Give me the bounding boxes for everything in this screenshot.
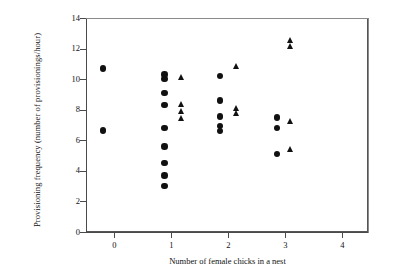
- y-tick-label: 12: [50, 44, 80, 53]
- y-tick-label: 4: [50, 166, 80, 175]
- data-point-triangle: [287, 37, 293, 43]
- y-tick-mark: [80, 232, 86, 233]
- plot-area: [86, 18, 368, 232]
- y-tick-label: 8: [50, 105, 80, 114]
- data-point-triangle: [233, 63, 239, 69]
- data-point-triangle: [178, 74, 184, 80]
- x-tick-mark: [171, 232, 172, 238]
- data-point-circle: [100, 127, 107, 134]
- plot-frame-right: [368, 18, 369, 233]
- plot-frame-top: [86, 18, 369, 19]
- x-tick-label: 3: [275, 241, 295, 250]
- y-tick-label: 0: [50, 228, 80, 237]
- y-tick-mark: [80, 18, 86, 19]
- y-tick-mark: [80, 110, 86, 111]
- y-axis-title: Provisioning frequency (number of provis…: [32, 15, 42, 245]
- x-tick-label: 0: [104, 241, 124, 250]
- data-point-triangle: [178, 101, 184, 107]
- data-point-circle: [217, 97, 224, 104]
- data-point-circle: [100, 65, 107, 72]
- y-tick-mark: [80, 171, 86, 172]
- y-tick-label: 6: [50, 136, 80, 145]
- data-point-circle: [161, 143, 168, 150]
- y-axis-spine: [86, 18, 87, 233]
- y-tick-mark: [80, 79, 86, 80]
- x-tick-mark: [114, 232, 115, 238]
- x-axis-title: Number of female chicks in a nest: [86, 256, 369, 266]
- y-tick-label: 2: [50, 197, 80, 206]
- scatter-plot-figure: 02468101214 01234 Provisioning frequency…: [0, 0, 397, 279]
- y-tick-mark: [80, 201, 86, 202]
- data-point-triangle: [287, 146, 293, 152]
- data-point-circle: [217, 113, 224, 120]
- y-tick-mark: [80, 140, 86, 141]
- y-tick-label: 10: [50, 75, 80, 84]
- x-tick-mark: [228, 232, 229, 238]
- x-tick-label: 2: [218, 241, 238, 250]
- data-point-circle: [274, 114, 281, 121]
- data-point-triangle: [287, 43, 293, 49]
- x-tick-label: 1: [161, 241, 181, 250]
- data-point-triangle: [233, 110, 239, 116]
- data-point-triangle: [178, 115, 184, 121]
- x-tick-label: 4: [332, 241, 352, 250]
- data-point-triangle: [287, 118, 293, 124]
- y-tick-label: 14: [50, 14, 80, 23]
- x-tick-mark: [342, 232, 343, 238]
- data-point-triangle: [178, 108, 184, 114]
- data-point-circle: [161, 90, 168, 97]
- data-point-circle: [161, 172, 168, 179]
- data-point-circle: [161, 125, 168, 132]
- x-tick-mark: [285, 232, 286, 238]
- y-tick-mark: [80, 49, 86, 50]
